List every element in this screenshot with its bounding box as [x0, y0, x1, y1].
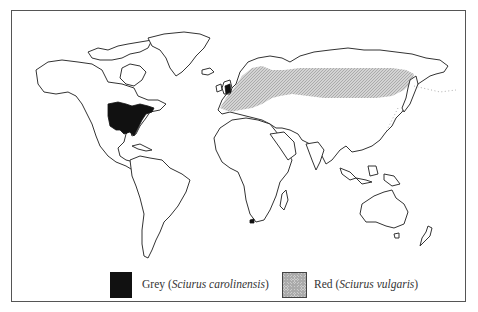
indian-subcontinent [306, 142, 324, 170]
iceland [202, 68, 214, 75]
legend-label-grey: Grey (Sciurus carolinensis) [142, 278, 269, 290]
continent-australia [360, 190, 408, 228]
legend-swatch-grey [110, 272, 132, 298]
tasmania [394, 233, 399, 238]
world-map [0, 0, 478, 312]
grey-squirrel-range-britain[interactable] [225, 84, 231, 94]
caribbean-islands [132, 144, 152, 151]
continent-south-america [130, 156, 190, 258]
legend-red-name: Red [314, 278, 333, 290]
indonesia [340, 166, 400, 186]
legend-swatch-red [282, 272, 307, 298]
legend-red-close-paren: ) [414, 278, 418, 290]
legend-grey-close-paren: ) [265, 278, 269, 290]
hudson-bay [120, 64, 146, 86]
arctic-archipelago [88, 40, 152, 60]
new-zealand [420, 226, 432, 246]
legend-grey-name: Grey [142, 278, 165, 290]
legend-grey-latin: Sciurus carolinensis [172, 278, 265, 290]
legend-red-latin: Sciurus vulgaris [339, 278, 414, 290]
madagascar [280, 190, 288, 210]
greenland [148, 32, 210, 76]
dotted-range-extension-east [414, 86, 456, 92]
legend-grey-open-paren: ( [165, 278, 172, 290]
ireland [216, 84, 222, 92]
grey-squirrel-range-south-africa[interactable] [250, 219, 254, 223]
legend-label-red: Red (Sciurus vulgaris) [314, 278, 418, 290]
